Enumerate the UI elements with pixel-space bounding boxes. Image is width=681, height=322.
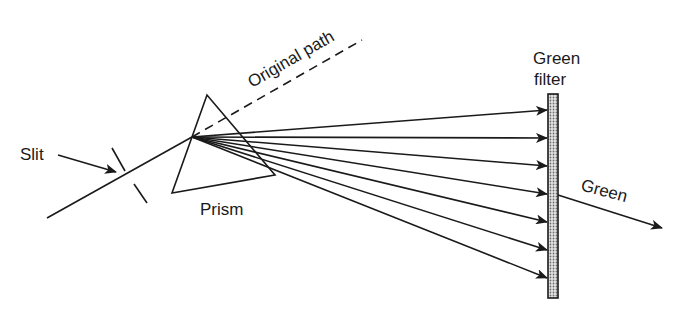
ray-6 [192, 137, 547, 250]
green-filter [548, 94, 558, 298]
ray-4 [192, 137, 547, 194]
dispersed-rays [192, 110, 547, 278]
filter-label-line1: Green [533, 49, 580, 68]
prism-label: Prism [200, 200, 243, 219]
green-output-label: Green [579, 176, 630, 207]
ray-3 [192, 137, 547, 166]
filter-label-line2: filter [534, 70, 566, 89]
ray-1 [192, 110, 547, 137]
ray-7 [192, 137, 547, 278]
ray-2 [192, 137, 547, 138]
original-path-label: Original path [245, 27, 338, 92]
original-path-line [192, 40, 362, 137]
prism-diagram: Slit Prism Original path Green filter Gr… [0, 0, 681, 322]
slit-label: Slit [20, 145, 44, 164]
incident-beam [47, 137, 192, 218]
slit [112, 148, 147, 203]
slit-pointer-arrow [58, 155, 116, 172]
